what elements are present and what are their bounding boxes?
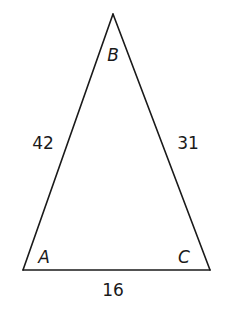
vertex-label-a: A bbox=[37, 247, 50, 267]
vertex-label-c: C bbox=[178, 247, 190, 267]
side-label-bc: 31 bbox=[177, 133, 199, 153]
side-labels: 42 31 16 bbox=[32, 133, 199, 300]
triangle-diagram: B A C 42 31 16 bbox=[0, 0, 226, 313]
vertex-label-b: B bbox=[107, 45, 119, 65]
side-label-ac: 16 bbox=[102, 280, 124, 300]
side-label-ab: 42 bbox=[32, 133, 54, 153]
